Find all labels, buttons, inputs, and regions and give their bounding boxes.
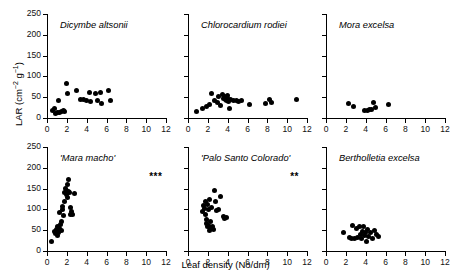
x-tick-label: 2	[336, 124, 356, 134]
x-tick-label: 2	[198, 124, 218, 134]
x-tick-label: 0	[37, 257, 57, 267]
data-point	[218, 194, 223, 199]
x-tick-label: 4	[77, 257, 97, 267]
y-tick	[43, 168, 47, 169]
x-tick	[445, 252, 446, 256]
x-tick	[386, 119, 387, 123]
data-point	[239, 98, 244, 103]
data-point	[65, 91, 70, 96]
x-tick	[47, 119, 48, 123]
data-point	[370, 236, 375, 241]
y-axis-line	[47, 147, 48, 252]
x-tick	[405, 119, 406, 123]
x-tick-label: 12	[435, 124, 451, 134]
y-tick	[322, 76, 326, 77]
y-tick	[43, 35, 47, 36]
x-tick-label: 4	[77, 124, 97, 134]
x-tick-label: 0	[178, 124, 198, 134]
x-tick-label: 0	[178, 257, 198, 267]
y-tick	[43, 209, 47, 210]
y-tick	[43, 97, 47, 98]
data-point	[386, 102, 391, 107]
x-tick-label: 6	[376, 257, 396, 267]
panel-title: Bertholletia excelsa	[339, 153, 420, 163]
x-tick-label: 8	[116, 124, 136, 134]
x-tick	[87, 119, 88, 123]
data-point	[88, 99, 93, 104]
data-point	[227, 106, 232, 111]
y-tick	[43, 147, 47, 148]
data-point	[207, 197, 212, 202]
scatter-panel-top-left: 050100150200250024681012Dicymbe altsonii	[47, 14, 166, 118]
x-tick-label: 0	[37, 124, 57, 134]
y-axis-line	[326, 147, 327, 252]
x-tick	[307, 252, 308, 256]
data-point	[65, 182, 70, 187]
x-tick-label: 6	[376, 124, 396, 134]
x-tick	[67, 119, 68, 123]
x-tick-label: 12	[297, 124, 317, 134]
y-tick	[43, 56, 47, 57]
x-tick-label: 6	[238, 124, 258, 134]
scatter-panel-bottom-right: 024681012Bertholletia excelsa	[326, 147, 445, 251]
y-tick	[322, 147, 326, 148]
data-point	[70, 212, 75, 217]
data-point	[269, 100, 274, 105]
data-point	[209, 91, 214, 96]
x-tick	[346, 119, 347, 123]
x-tick	[267, 252, 268, 256]
panel-title: Chlorocardium rodiei	[201, 20, 287, 30]
x-tick	[326, 252, 327, 256]
y-tick	[322, 189, 326, 190]
x-tick-label: 10	[277, 257, 297, 267]
data-point	[74, 88, 79, 93]
data-point	[87, 90, 92, 95]
x-tick-label: 6	[97, 257, 117, 267]
panel-title: 'Palo Santo Colorado'	[201, 153, 290, 163]
data-point	[49, 239, 54, 244]
x-tick	[146, 252, 147, 256]
y-tick-label: 250	[11, 8, 41, 18]
y-tick	[322, 35, 326, 36]
panel-title: Mora excelsa	[339, 20, 394, 30]
y-tick	[322, 209, 326, 210]
x-tick	[307, 119, 308, 123]
y-tick	[184, 97, 188, 98]
y-tick-label: 200	[11, 29, 41, 39]
x-tick	[287, 119, 288, 123]
x-tick	[47, 252, 48, 256]
x-tick	[67, 252, 68, 256]
x-tick	[326, 119, 327, 123]
x-tick-label: 10	[277, 124, 297, 134]
data-point	[60, 204, 65, 209]
x-tick-label: 10	[136, 124, 156, 134]
y-axis-line	[188, 14, 189, 119]
x-tick-label: 8	[257, 257, 277, 267]
data-point	[294, 97, 299, 102]
y-tick	[43, 189, 47, 190]
y-tick	[184, 168, 188, 169]
scatter-panel-top-right: 024681012Mora excelsa	[326, 14, 445, 118]
data-point	[364, 239, 369, 244]
x-tick	[126, 252, 127, 256]
data-point	[194, 109, 199, 114]
x-tick	[166, 252, 167, 256]
data-point	[64, 81, 69, 86]
y-tick	[184, 209, 188, 210]
x-tick-label: 2	[198, 257, 218, 267]
data-point	[61, 213, 66, 218]
data-point	[224, 215, 229, 220]
y-axis-line	[188, 147, 189, 252]
data-point	[59, 219, 64, 224]
y-tick	[184, 189, 188, 190]
x-tick	[126, 119, 127, 123]
data-point	[108, 98, 113, 103]
panel-title: Dicymbe altsonii	[60, 20, 128, 30]
data-point	[213, 199, 218, 204]
x-tick-label: 4	[218, 124, 238, 134]
data-point	[56, 98, 61, 103]
y-tick-label: 150	[11, 50, 41, 60]
panel-title: 'Mara macho'	[60, 153, 115, 163]
data-point	[373, 105, 378, 110]
x-tick-label: 4	[218, 257, 238, 267]
